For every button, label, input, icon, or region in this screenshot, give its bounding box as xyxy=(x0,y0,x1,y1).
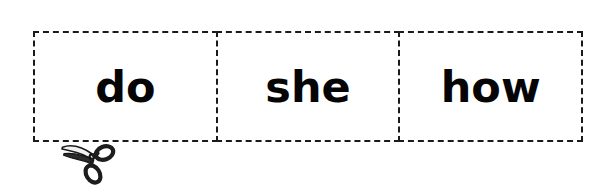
background-watermark xyxy=(336,147,586,181)
word-label: do xyxy=(95,66,155,109)
word-label: she xyxy=(265,66,350,109)
word-label: how xyxy=(441,66,541,109)
worksheet-page: do she how xyxy=(0,0,607,186)
word-card-1[interactable]: do xyxy=(33,31,218,142)
scissors-icon xyxy=(59,139,117,186)
word-card-3[interactable]: how xyxy=(398,31,583,142)
cut-out-strip: do she how xyxy=(33,31,583,142)
word-card-2[interactable]: she xyxy=(216,31,401,142)
